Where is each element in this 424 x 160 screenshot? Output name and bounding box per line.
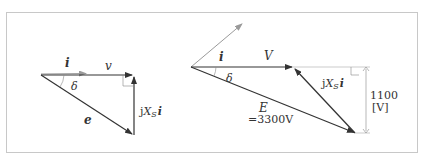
- left-angle-arc: [60, 75, 64, 87]
- right-right-angle-mark: [351, 67, 359, 75]
- left-right-angle-mark: [123, 75, 134, 86]
- dimension-unit: [V]: [372, 101, 389, 114]
- right-reactance-label: jXSi: [320, 77, 344, 91]
- right-emf-value: =3300V: [248, 113, 294, 126]
- figure-frame: [7, 13, 418, 153]
- left-current-vector: [41, 74, 86, 75]
- left-reactance-label: jXSi: [138, 105, 162, 119]
- right-phasor-diagram: i V δ jXSi E =3300V 1100 [V]: [191, 24, 398, 133]
- left-voltage-label: v: [105, 59, 112, 73]
- left-current-label: i: [65, 56, 70, 70]
- left-angle-label: δ: [71, 80, 78, 93]
- right-current-label: i: [219, 50, 224, 64]
- figure-canvas: i v δ e jXSi: [0, 0, 424, 160]
- right-angle-label: δ: [226, 72, 233, 85]
- left-phasor-diagram: i v δ e jXSi: [41, 56, 162, 135]
- phasor-diagram-figure: i v δ e jXSi: [0, 0, 424, 160]
- right-voltage-label: V: [264, 49, 274, 63]
- left-emf-label: e: [84, 113, 92, 127]
- right-angle-arc: [214, 67, 216, 76]
- right-current-vector: [191, 24, 242, 67]
